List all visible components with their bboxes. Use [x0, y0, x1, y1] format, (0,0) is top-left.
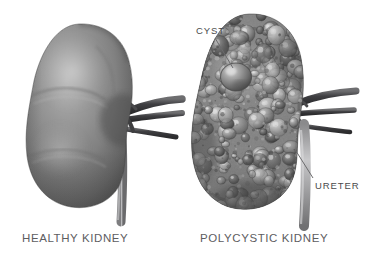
healthy-kidney-illustration	[18, 14, 182, 230]
polycystic-kidney-illustration	[183, 4, 356, 226]
highlighted-cyst	[221, 63, 252, 91]
illustration-canvas: CYST URETER HEALTHY KIDNEY POLYCYSTIC KI…	[0, 0, 369, 264]
healthy-kidney-caption: HEALTHY KIDNEY	[22, 232, 128, 244]
kidney-comparison-figure	[0, 0, 369, 264]
ureter-label: URETER	[315, 180, 359, 191]
cyst-label: CYST	[196, 25, 225, 36]
polycystic-kidney-caption: POLYCYSTIC KIDNEY	[200, 232, 328, 244]
